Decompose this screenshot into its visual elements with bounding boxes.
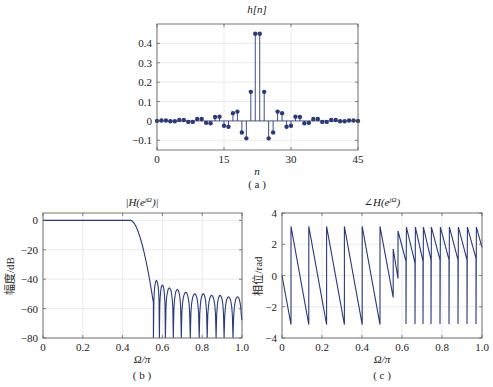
y-tick-label: −2 [265,301,277,313]
y-tick-label: −0.1 [132,134,152,146]
plot-b-frame [43,213,242,338]
plot-c-ticks: 00.20.40.60.81.0−4−2024 [265,207,489,353]
y-tick-label: 4 [272,207,278,219]
x-tick-label: 0.6 [156,341,170,353]
y-tick-label: 0 [147,115,153,127]
y-tick-label: −80 [21,332,39,344]
x-tick-label: 0.4 [116,341,130,353]
x-tick-label: 45 [353,153,365,165]
plot-c-ylabel: 相位/rad [251,256,264,296]
plot-a-grid [157,24,358,150]
y-tick-label: 0.1 [138,96,152,108]
x-tick-label: 0.4 [355,341,369,353]
plot-a-ticks: 0153045−0.100.10.20.30.4 [132,24,364,165]
x-tick-label: 0 [40,341,46,353]
x-tick-label: 1.0 [235,341,249,353]
x-tick-label: 0.2 [315,341,329,353]
magnitude-response-plot: |H(ejΩ)| 00.20.40.60.81.0−80−60−40−200 幅… [3,196,249,382]
plot-a-xlabel: n [254,165,260,177]
x-tick-label: 15 [219,153,231,165]
x-tick-label: 30 [286,153,298,165]
x-tick-label: 0.2 [76,341,90,353]
figure-canvas: h[n] 0153045−0.100.10.20.30.4 n ( a ) |H… [0,0,493,387]
plot-a-stems [155,31,360,140]
x-tick-label: 1.0 [475,341,489,353]
plot-c-grid [282,213,482,338]
y-tick-label: 0.3 [138,57,152,69]
y-tick-label: 2 [272,238,278,250]
y-tick-label: 0 [33,214,39,226]
y-tick-label: −60 [21,303,39,315]
y-tick-label: 0.2 [138,76,152,88]
x-tick-label: 0 [154,153,160,165]
x-tick-label: 0.6 [395,341,409,353]
stem-plot-h-n: h[n] 0153045−0.100.10.20.30.4 n ( a ) [132,3,364,191]
plot-b-xlabel: Ω/π [134,353,151,365]
plot-a-title: h[n] [247,3,267,15]
plot-b-title: |H(ejΩ)| [125,196,158,209]
y-tick-label: −40 [21,273,39,285]
plot-c-xlabel: Ω/π [374,353,391,365]
plot-b-grid [43,213,242,338]
plot-b-ylabel: 幅度/dB [3,257,16,295]
x-tick-label: 0.8 [195,341,209,353]
y-tick-label: 0.4 [138,37,152,49]
plot-a-frame [157,24,358,150]
x-tick-label: 0 [279,341,285,353]
y-tick-label: −4 [265,332,277,344]
y-tick-label: −20 [21,244,39,256]
y-tick-label: 0 [272,270,278,282]
plot-c-caption: ( c ) [373,369,391,382]
plot-b-ticks: 00.20.40.60.81.0−80−60−40−200 [21,213,250,353]
x-tick-label: 0.8 [435,341,449,353]
plot-b-caption: ( b ) [133,369,152,382]
plot-a-caption: ( a ) [248,178,266,191]
plot-c-title: ∠H(ejΩ) [364,196,401,209]
phase-response-plot: ∠H(ejΩ) 00.20.40.60.81.0−4−2024 相位/rad Ω… [251,196,489,382]
